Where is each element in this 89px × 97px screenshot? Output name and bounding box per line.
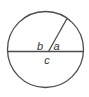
angle-label-c: c (44, 54, 50, 66)
geometry-diagram: b a c (0, 0, 89, 97)
circle-outline (8, 12, 84, 88)
angle-label-b: b (37, 40, 43, 52)
circle-angle-figure: b a c (0, 0, 89, 97)
angle-label-a: a (53, 40, 59, 52)
